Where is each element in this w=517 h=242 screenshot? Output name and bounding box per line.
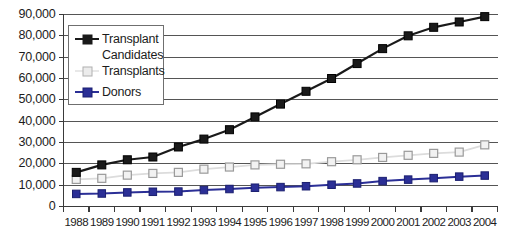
legend-item-transplant-candidates-line2: Candidates <box>69 47 163 63</box>
x-axis-tick-label: 1994 <box>215 217 243 229</box>
x-axis-tick-label: 1991 <box>139 217 167 229</box>
x-axis-tick-label: 1998 <box>318 217 346 229</box>
legend: Transplant Candidates Transplants Donors <box>68 25 164 105</box>
x-axis-tick-label: 1990 <box>113 217 141 229</box>
y-axis-tick-label: 30,000 <box>18 136 55 149</box>
y-axis-tick-label: 10,000 <box>18 179 55 192</box>
legend-label-donors: Donors <box>102 85 141 99</box>
y-axis-tick-label: 0 <box>49 200 56 213</box>
x-axis-tick-label: 1988 <box>62 217 90 229</box>
legend-marker-transplants <box>74 63 100 79</box>
x-axis-tick-label: 1999 <box>343 217 371 229</box>
x-axis-tick-label: 1989 <box>88 217 116 229</box>
legend-label-transplant-candidates: Transplant <box>102 32 159 46</box>
legend-item-transplants: Transplants <box>69 63 163 79</box>
x-axis-tick-label: 1996 <box>267 217 295 229</box>
legend-label-transplants: Transplants <box>102 64 165 78</box>
y-axis-tick-label: 60,000 <box>18 72 55 85</box>
x-axis-tick-label: 1993 <box>190 217 218 229</box>
legend-item-transplant-candidates: Transplant <box>69 31 163 47</box>
x-axis-ticks <box>64 207 498 212</box>
x-axis-tick-label: 2002 <box>420 217 448 229</box>
y-axis-tick-label: 70,000 <box>18 51 55 64</box>
legend-item-donors: Donors <box>69 84 163 100</box>
x-axis-tick-label: 2004 <box>471 217 499 229</box>
legend-marker-transplant-candidates <box>74 31 100 47</box>
y-axis-tick-label: 20,000 <box>18 157 55 170</box>
x-axis-tick-label: 1992 <box>164 217 192 229</box>
legend-marker-donors <box>74 84 100 100</box>
y-axis-ticks <box>59 15 64 207</box>
y-axis-tick-label: 50,000 <box>18 93 55 106</box>
x-axis-tick-label: 2003 <box>445 217 473 229</box>
x-axis-tick-label: 1995 <box>241 217 269 229</box>
line-chart: 010,00020,00030,00040,00050,00060,00070,… <box>0 0 517 242</box>
x-axis-tick-label: 2001 <box>394 217 422 229</box>
x-axis-tick-label: 2000 <box>369 217 397 229</box>
y-axis-tick-label: 40,000 <box>18 115 55 128</box>
y-axis-tick-label: 90,000 <box>18 8 55 21</box>
legend-label-transplant-candidates-cont: Candidates <box>102 48 163 62</box>
x-axis-tick-label: 1997 <box>292 217 320 229</box>
y-axis-tick-label: 80,000 <box>18 29 55 42</box>
